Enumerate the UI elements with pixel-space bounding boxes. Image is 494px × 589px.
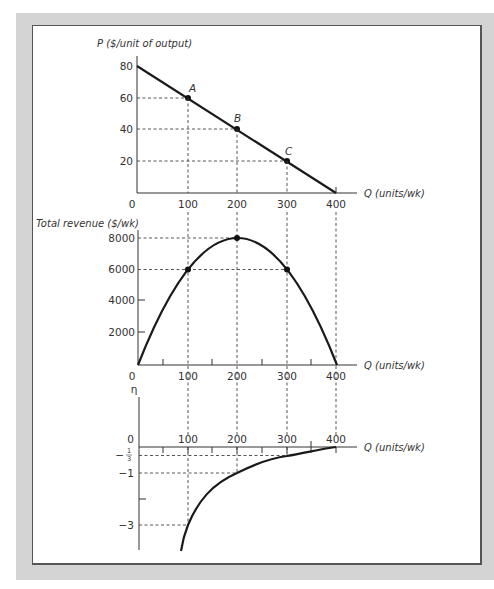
demand-xtick-200: 200: [227, 198, 247, 210]
demand-xtick-400: 400: [326, 198, 346, 210]
demand-xtick-0: 0: [129, 198, 136, 210]
demand-ytick-40: 40: [120, 123, 133, 135]
eta-xtick-400: 400: [326, 433, 346, 445]
eta-ytick-third-minus: −: [115, 449, 124, 461]
tr-curve: [138, 238, 337, 365]
point-a-label: A: [188, 82, 196, 94]
tr-xtick-0: 0: [129, 370, 136, 382]
tr-xtick-200: 200: [227, 370, 247, 382]
tr-xtick-100: 100: [178, 370, 198, 382]
eta-ytick-third-num: 1: [127, 447, 131, 455]
eta-xtick-300: 300: [277, 433, 297, 445]
tr-guides: [138, 238, 287, 270]
tr-ytick-6000: 6000: [108, 263, 135, 275]
eta-ytick-m1: −1: [119, 467, 134, 479]
eta-ytick-m3: −3: [119, 519, 134, 531]
eta-curve: [181, 447, 336, 551]
eta-ytick-third-den: 3: [127, 455, 131, 463]
tr-ytick-4000: 4000: [108, 294, 135, 306]
eta-x-label: Q (units/wk): [364, 442, 425, 453]
tr-ytick-8000: 8000: [108, 232, 135, 244]
chart-elasticity: 0 − 1 3 −1 −3 100 200 300 400 η Q (units…: [115, 383, 425, 551]
demand-ytick-60: 60: [120, 92, 133, 104]
tr-ticks: [138, 300, 311, 365]
demand-ytick-80: 80: [120, 60, 133, 72]
eta-guides: [139, 456, 287, 526]
demand-ytick-20: 20: [120, 155, 133, 167]
eta-xtick-100: 100: [178, 433, 198, 445]
demand-y-label: P ($/unit of output): [97, 38, 192, 49]
tr-x-label: Q (units/wk): [364, 360, 425, 371]
demand-xtick-100: 100: [178, 198, 198, 210]
point-c-label: C: [285, 145, 293, 157]
eta-y-label: η: [131, 383, 138, 395]
demand-x-label: Q (units/wk): [364, 188, 425, 199]
tr-ytick-2000: 2000: [108, 326, 135, 338]
demand-guides: [137, 98, 287, 161]
tr-point-100: [185, 267, 191, 273]
chart-demand: A B C 80 60 40 20 0 100 200 300 400 P ($…: [97, 38, 425, 210]
tr-y-label: Total revenue ($/wk): [36, 218, 139, 229]
demand-xtick-300: 300: [277, 198, 297, 210]
tr-xtick-300: 300: [277, 370, 297, 382]
chart-total-revenue: 8000 6000 4000 2000 0 100 200 300 400 To…: [36, 218, 425, 382]
eta-ytick-0: 0: [127, 433, 134, 445]
economics-figure: A B C 80 60 40 20 0 100 200 300 400 P ($…: [0, 0, 494, 589]
eta-xtick-200: 200: [227, 433, 247, 445]
tr-xtick-400: 400: [326, 370, 346, 382]
point-b-label: B: [234, 112, 241, 124]
tr-point-300: [284, 267, 290, 273]
tr-point-200: [234, 235, 240, 241]
eta-ticks: [139, 441, 336, 499]
